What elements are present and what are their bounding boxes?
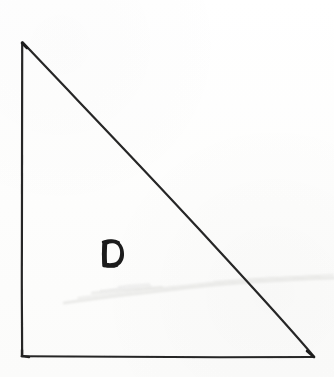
triangle-outline <box>22 42 315 357</box>
vertex-right-angle <box>13 347 31 365</box>
paper-crease-smudge <box>64 275 334 303</box>
figure-canvas <box>0 0 334 377</box>
vertex-apex <box>13 33 31 51</box>
edge-bottom-leg <box>22 356 315 357</box>
triangle-drawing <box>0 0 334 377</box>
label-d-glyph <box>102 240 124 267</box>
vertex-base-end <box>305 348 323 366</box>
edge-hypotenuse <box>23 42 314 356</box>
